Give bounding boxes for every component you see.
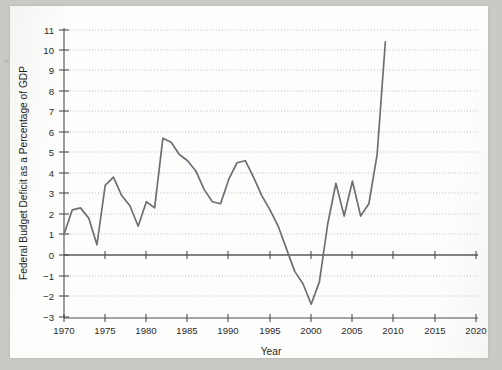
y-tick-label: −3: [43, 312, 54, 323]
y-tick-label: 9: [49, 65, 54, 76]
screenshot-root: 11 10 9 8 7 6 5 4 3 2 1 0 −1 −2 −3: [0, 0, 502, 370]
x-tick-label: 2000: [300, 325, 321, 336]
y-tick-labels: 11 10 9 8 7 6 5 4 3 2 1 0 −1 −2 −3: [43, 25, 55, 323]
x-tick-label: 2020: [465, 325, 486, 336]
y-tick-label: 5: [49, 147, 54, 158]
y-tick-label: 7: [49, 106, 54, 117]
line-chart-svg: 11 10 9 8 7 6 5 4 3 2 1 0 −1 −2 −3: [0, 0, 502, 370]
x-axis-title: Year: [261, 346, 282, 357]
gridlines: [64, 30, 478, 296]
y-tick-label: −1: [43, 271, 54, 282]
x-tick-label: 1995: [259, 325, 280, 336]
y-tick-label: 2: [49, 209, 54, 220]
x-tick-label: 1985: [176, 325, 197, 336]
x-tick-label: 1980: [135, 325, 156, 336]
x-tick-label: 1975: [94, 325, 115, 336]
y-tick-label: 4: [49, 168, 55, 179]
x-tick-label: 2010: [382, 325, 403, 336]
y-tick-label: 10: [43, 45, 54, 56]
y-tick-label: 0: [49, 250, 54, 261]
y-tick-label: 3: [49, 188, 54, 199]
y-tick-label: 1: [49, 229, 54, 240]
x-tick-label: 1970: [53, 325, 74, 336]
y-axis-title: Federal Budget Deficit as a Percentage o…: [18, 66, 29, 280]
chart-figure: 11 10 9 8 7 6 5 4 3 2 1 0 −1 −2 −3: [0, 0, 502, 370]
y-tick-label: 11: [44, 25, 54, 36]
y-tick-label: 8: [49, 86, 54, 97]
x-tick-label: 1990: [217, 325, 238, 336]
x-tick-label: 2005: [341, 325, 362, 336]
x-tick-labels: 1970 1975 1980 1985 1990 1995 2000 2005 …: [53, 325, 486, 336]
y-tick-label: −2: [43, 291, 54, 302]
y-tick-label: 6: [49, 127, 54, 138]
x-tick-label: 2015: [424, 325, 445, 336]
